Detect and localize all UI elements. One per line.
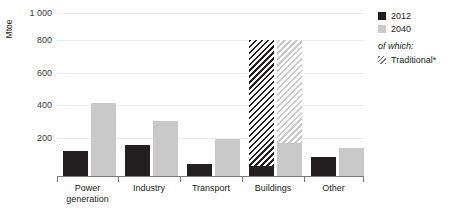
- y-axis-tick-label-600: 600: [2, 68, 52, 78]
- x-axis-tick-1: [118, 177, 119, 182]
- x-axis-tick-5: [363, 177, 364, 182]
- bar-group-transport: [187, 13, 243, 176]
- x-axis-label-line2: generation: [57, 194, 118, 205]
- x-axis-label-line1: Power: [57, 183, 118, 194]
- bar-segment-solid: [91, 103, 116, 176]
- x-axis-label-industry: Industry: [118, 183, 180, 194]
- legend-label-2012: 2012: [391, 11, 411, 21]
- bar-group-buildings: [249, 13, 305, 176]
- bar-segment-solid: [125, 145, 150, 176]
- bar-segment-traditional-hatched: [277, 40, 302, 143]
- bar-chart: Mtoe 1 000 800 600 400 200: [0, 0, 456, 221]
- legend-swatch-2012-icon: [378, 12, 386, 20]
- x-axis-tick-2: [180, 177, 181, 182]
- y-axis-tick-label-200: 200: [2, 133, 52, 143]
- bar-group-power-generation: [63, 13, 119, 176]
- bar-segment-solid: [63, 151, 88, 176]
- bar-segment-solid: [249, 166, 274, 176]
- legend: 2012 2040 of which: Traditional*: [378, 9, 436, 66]
- x-axis-label-buildings: Buildings: [242, 183, 304, 194]
- bar-segment-solid: [187, 164, 212, 176]
- legend-label-2040: 2040: [391, 24, 411, 34]
- x-axis-tick-3: [242, 177, 243, 182]
- legend-label-traditional: Traditional*: [391, 55, 436, 65]
- x-axis-label-line1: Industry: [118, 183, 180, 194]
- x-axis-label-power-generation: Power generation: [57, 183, 118, 204]
- y-axis-tick-label-1000: 1 000: [2, 8, 52, 18]
- legend-of-which-label: of which:: [378, 41, 436, 53]
- x-axis-label-line1: Other: [304, 183, 363, 194]
- y-axis-tick-label-800: 800: [2, 35, 52, 45]
- x-axis-tick-4: [304, 177, 305, 182]
- x-axis-label-transport: Transport: [180, 183, 242, 194]
- bar-group-industry: [125, 13, 181, 176]
- legend-swatch-2040-icon: [378, 25, 386, 33]
- bar-segment-solid: [311, 157, 336, 176]
- y-axis-tick-label-400: 400: [2, 100, 52, 110]
- legend-item-traditional[interactable]: Traditional*: [378, 53, 436, 66]
- legend-item-2040[interactable]: 2040: [378, 22, 436, 35]
- bar-segment-solid: [339, 148, 364, 176]
- x-axis-line: [57, 176, 364, 177]
- legend-item-2012[interactable]: 2012: [378, 9, 436, 22]
- plot-area: [57, 13, 364, 177]
- bar-segment-solid: [215, 139, 240, 176]
- legend-swatch-traditional-hatch-icon: [378, 56, 386, 64]
- x-axis-label-other: Other: [304, 183, 363, 194]
- bar-segment-solid: [277, 143, 302, 176]
- bar-group-other: [311, 13, 367, 176]
- bar-segment-traditional-hatched: [249, 40, 274, 166]
- x-axis-tick-0: [57, 177, 58, 182]
- x-axis-label-line1: Buildings: [242, 183, 304, 194]
- x-axis-label-line1: Transport: [180, 183, 242, 194]
- bar-segment-solid: [153, 121, 178, 176]
